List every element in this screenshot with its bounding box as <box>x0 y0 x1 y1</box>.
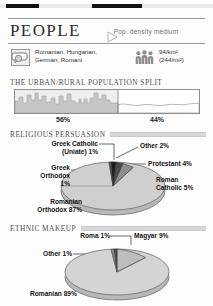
label-roma: Roma 1% <box>48 232 110 240</box>
rule-segment <box>39 4 92 8</box>
people-group-icon <box>134 48 154 66</box>
label-magyar: Magyar 9% <box>134 232 168 240</box>
section-label: THE URBAN/RURAL POPULATION SPLIT <box>10 78 162 87</box>
fact-density-text: 94/km² (244/mi²) <box>159 48 184 65</box>
label-romanian: Romanian 89% <box>30 290 77 298</box>
greek-orthodox-line2: Orthodox <box>40 172 70 179</box>
label-other-ethnic: Other 1% <box>10 250 72 258</box>
fact-density: 94/km² (244/mi²) <box>134 48 184 66</box>
rule-segment <box>92 4 142 8</box>
ethnic-pie-chart: Roma 1% Other 1% Magyar 9% Romanian 89% <box>0 232 213 306</box>
page-title: PEOPLE <box>8 21 81 41</box>
page-header: PEOPLE Pop. density medium <box>8 18 205 44</box>
greek-orthodox-line3: 1% <box>60 180 70 187</box>
facts-row: Romanian, Hungarian, German, Romani <box>10 48 206 72</box>
languages-line2: German, Romani <box>35 56 97 64</box>
label-roman-catholic: Roman Catholic 5% <box>156 176 193 192</box>
greek-catholic-line2: (Uniate) 1% <box>62 148 98 155</box>
greek-catholic-line1: Greek Catholic <box>51 140 98 147</box>
fact-languages: Romanian, Hungarian, German, Romani <box>10 48 97 66</box>
label-greek-orthodox: Greek Orthodox 1% <box>14 164 70 188</box>
section-rule <box>110 132 206 137</box>
label-greek-catholic: Greek Catholic (Uniate) 1% <box>22 140 98 156</box>
languages-line1: Romanian, Hungarian, <box>35 48 97 55</box>
label-other-religion: Other 2% <box>140 142 169 150</box>
roman-catholic-line1: Roman <box>156 176 178 183</box>
urban-rural-chart <box>14 89 200 114</box>
rule-segment <box>142 4 213 8</box>
density-line1: 94/km² <box>159 48 178 55</box>
roman-catholic-line2: Catholic 5% <box>156 184 193 191</box>
romanian-orthodox-line1: Romanian <box>50 198 82 205</box>
page-subtitle: Pop. density medium <box>114 28 179 35</box>
religious-pie-chart: Greek Catholic (Uniate) 1% Greek Orthodo… <box>0 138 213 224</box>
rural-percent: 44% <box>150 116 164 123</box>
rule-segment <box>6 4 39 8</box>
top-segmented-rule <box>0 4 213 8</box>
romanian-orthodox-line2: Orthodox 87% <box>37 206 82 213</box>
label-romanian-orthodox: Romanian Orthodox 87% <box>6 198 82 214</box>
urban-percent: 56% <box>56 116 70 123</box>
section-heading-urban-rural: THE URBAN/RURAL POPULATION SPLIT <box>10 78 206 87</box>
density-line2: (244/mi²) <box>159 56 184 64</box>
speech-bubble-icon <box>10 48 30 66</box>
people-infographic-page: PEOPLE Pop. density medium Romanian, Hun… <box>0 0 213 306</box>
greek-orthodox-line1: Greek <box>51 164 70 171</box>
urban-rural-percentages: 56% 44% <box>14 116 200 127</box>
section-rule <box>81 226 206 231</box>
fact-languages-text: Romanian, Hungarian, German, Romani <box>35 48 97 65</box>
label-protestant: Protestant 4% <box>148 160 192 168</box>
